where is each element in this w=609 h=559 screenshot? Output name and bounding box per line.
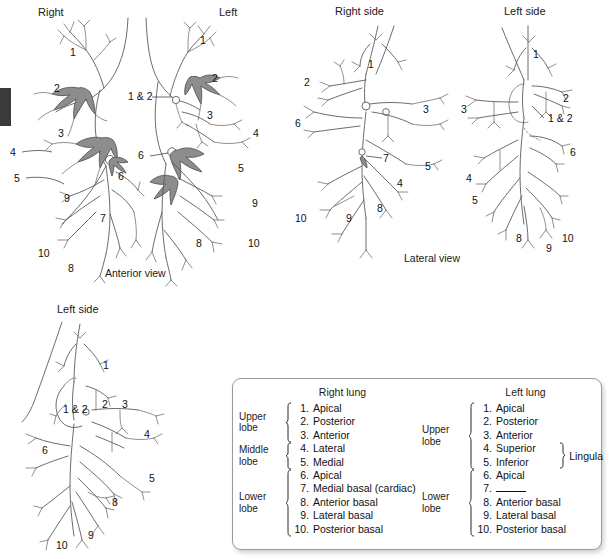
anterior-right-label-8: 8	[68, 262, 74, 274]
lateral-left-label-6: 6	[570, 146, 576, 158]
legend-item-name: Apical	[496, 469, 601, 482]
legend-item-number: 5.	[292, 456, 313, 469]
lingula-label: Lingula	[566, 450, 603, 462]
lateral-right-label-3: 3	[423, 103, 429, 115]
legend-left-upper-lobe-items: 1. Apical 2. Posterior 3. Anterior 4.	[475, 402, 601, 469]
lateral-left-label-8: 8	[516, 232, 522, 244]
brace-icon	[285, 442, 292, 469]
legend-item-number: 9.	[292, 509, 313, 522]
bottom-label-9: 9	[88, 529, 94, 541]
legend-item-number: 1.	[475, 402, 496, 415]
anterior-left-label-10: 10	[248, 237, 260, 249]
brace-icon	[468, 469, 475, 536]
lateral-right-label-4: 4	[397, 177, 403, 189]
absent-segment-dash	[496, 491, 526, 492]
legend-item-name: Medial	[313, 456, 418, 469]
legend-right-upper-lobe-items: 1. Apical 2. Posterior 3. Anterior	[292, 402, 418, 442]
bottom-label-3: 3	[122, 398, 128, 410]
legend-item-number: 4.	[292, 442, 313, 455]
brace-icon	[468, 402, 475, 469]
legend-item-number: 9.	[475, 509, 496, 522]
legend-item-name: Posterior basal	[313, 523, 418, 536]
bottom-label-1: 1	[103, 359, 109, 371]
bottom-label-1and2: 1 & 2	[63, 403, 88, 415]
legend-item-absent: 7.	[475, 482, 601, 495]
legend-left-lung-column: Left lung Upper lobe 1. Apical	[418, 386, 601, 549]
legend-item-name: Apical	[496, 402, 601, 415]
legend-item-name: Anterior	[496, 429, 601, 442]
anterior-left-label-1: 1	[200, 34, 206, 46]
lateral-right-label-8: 8	[377, 202, 383, 214]
lateral-right-label-6: 6	[295, 117, 301, 129]
anterior-header-right: Right	[38, 6, 64, 18]
anterior-left-label-1and2: 1 & 2	[128, 90, 153, 102]
legend-item-number: 2.	[292, 415, 313, 428]
anterior-right-label-10: 10	[38, 247, 50, 259]
legend-item-number: 2.	[475, 415, 496, 428]
legend-item-number: 8.	[475, 496, 496, 509]
legend-item: 3. Anterior	[292, 429, 418, 442]
legend-item: 2. Posterior	[475, 415, 601, 428]
legend-item-number: 10.	[475, 523, 496, 536]
lateral-left-label-1and2: 1 & 2	[548, 112, 573, 124]
anterior-left-label-3: 3	[207, 109, 213, 121]
legend-item-number: 3.	[292, 429, 313, 442]
legend-item-name: Posterior	[496, 415, 601, 428]
legend-item-number: 3.	[475, 429, 496, 442]
legend-item-name: Anterior basal	[496, 496, 601, 509]
legend-right-middle-lobe-group: Middle lobe 4. Lateral 5. Media	[239, 442, 418, 469]
legend-left-upper-lobe-name: Upper lobe	[422, 424, 468, 447]
legend-left-lower-lobe-name: Lower lobe	[422, 491, 468, 514]
anterior-left-label-4: 4	[253, 127, 259, 139]
anterior-right-label-6: 6	[118, 170, 124, 182]
lateral-left-label-5: 5	[472, 194, 478, 206]
legend-item: 8. Anterior basal	[292, 496, 418, 509]
panel-lateral-left: Left side 1 1 & 2 2 3 4 5 6 8 9 10	[450, 0, 609, 268]
anterior-left-label-2: 2	[212, 72, 218, 84]
legend-item: 9. Lateral basal	[475, 509, 601, 522]
bottom-label-10: 10	[56, 539, 68, 551]
lateral-right-label-2: 2	[304, 76, 310, 88]
legend-item-name: Lateral basal	[313, 509, 418, 522]
panel-anterior-view: Right Left 1 2 3 4 5 6 7 8 9 10 1 1 & 2 …	[0, 0, 290, 290]
bronchopulmonary-segments-figure: Right Left 1 2 3 4 5 6 7 8 9 10 1 1 & 2 …	[0, 0, 609, 559]
anterior-left-label-8: 8	[196, 237, 202, 249]
legend-item: 5. Medial	[292, 456, 418, 469]
legend-item: 9. Lateral basal	[292, 509, 418, 522]
legend-item-name: Lateral basal	[496, 509, 601, 522]
lateral-left-label-1: 1	[533, 48, 539, 60]
legend-item-name: Anterior basal	[313, 496, 418, 509]
legend-item: 6. Apical	[292, 469, 418, 482]
legend-right-middle-lobe-name: Middle lobe	[239, 444, 285, 467]
lateral-right-label-10: 10	[295, 212, 307, 224]
legend-item-number: 7.	[475, 482, 496, 495]
lateral-right-label-1: 1	[368, 58, 374, 70]
legend-right-lung-title: Right lung	[239, 386, 418, 398]
lateral-left-label-10: 10	[562, 232, 574, 244]
legend-right-lower-lobe-items: 6. Apical 7. Medial basal (cardiac) 8. A…	[292, 469, 418, 536]
panel-bottom-left-side: Left side 1 1 & 2 2 3 4 5 6 8 9 10	[0, 296, 232, 559]
legend-item: 3. Anterior	[475, 429, 601, 442]
lateral-left-label-9: 9	[546, 242, 552, 254]
legend-item-number: 7.	[292, 482, 313, 495]
legend-right-middle-lobe-items: 4. Lateral 5. Medial	[292, 442, 418, 469]
bottom-label-2: 2	[102, 398, 108, 410]
legend-item-number: 6.	[292, 469, 313, 482]
lingula-group: Lingula	[559, 442, 603, 469]
legend-item-number: 6.	[475, 469, 496, 482]
anterior-header-left: Left	[219, 6, 237, 18]
lateral-left-header: Left side	[504, 5, 546, 17]
legend-item: 7. Medial basal (cardiac)	[292, 482, 418, 495]
legend-item-number: 4.	[475, 442, 496, 455]
legend-item: 1. Apical	[475, 402, 601, 415]
legend-item-name: Lateral	[313, 442, 418, 455]
legend-right-lower-lobe-group: Lower lobe 6. Apical 7. Medial	[239, 469, 418, 536]
legend-item-name: Medial basal (cardiac)	[313, 482, 418, 495]
legend-item-name: Apical	[313, 402, 418, 415]
legend-item-number: 1.	[292, 402, 313, 415]
anterior-left-label-9: 9	[252, 197, 258, 209]
anterior-right-label-9: 9	[64, 192, 70, 204]
legend-item-name: Posterior basal	[496, 523, 601, 536]
legend-item-number: 5.	[475, 456, 496, 469]
legend-item: 4. Lateral	[292, 442, 418, 455]
